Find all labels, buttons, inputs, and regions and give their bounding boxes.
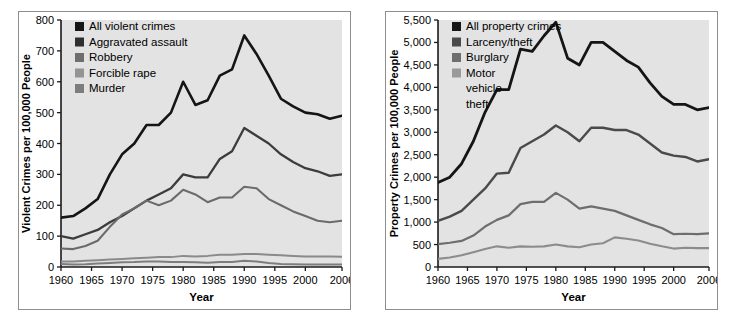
property-crimes-x-axis-title: Year [561, 291, 586, 303]
violent-crimes-x-tick-label: 1980 [171, 274, 195, 286]
violent-crimes-x-tick-label: 1990 [232, 274, 256, 286]
legend-swatch [75, 38, 84, 47]
legend-label: Forcible rape [89, 67, 156, 79]
property-crimes-y-tick-label: 3,000 [403, 126, 431, 138]
violent-crimes-y-tick-label: 700 [36, 45, 54, 57]
violent-crimes-y-tick-label: 200 [36, 199, 54, 211]
legend-swatch [452, 53, 461, 62]
property-crimes-y-tick-label: 500 [413, 239, 431, 251]
violent-crimes-y-tick-label: 0 [48, 261, 54, 273]
property-crimes-x-tick-label: 1960 [426, 274, 450, 286]
legend-swatch [75, 53, 84, 62]
legend-label: All property crimes [466, 20, 561, 32]
violent-crimes-y-tick-label: 100 [36, 230, 54, 242]
violent-crimes-x-tick-label: 1960 [49, 274, 73, 286]
property-crimes-y-tick-label: 1,000 [403, 216, 431, 228]
violent-crimes-svg: 0100200300400500600700800196019651970197… [19, 12, 350, 309]
property-crimes-x-tick-label: 1990 [602, 274, 626, 286]
violent-crimes-y-tick-label: 300 [36, 168, 54, 180]
legend-label: Motor [466, 67, 496, 79]
property-crimes-x-tick-label: 1995 [632, 274, 656, 286]
property-crimes-y-tick-label: 5,500 [403, 14, 431, 26]
violent-crimes-x-tick-label: 1965 [79, 274, 103, 286]
legend-label: vehicle [466, 82, 502, 94]
violent-crimes-y-tick-label: 600 [36, 76, 54, 88]
legend-label: Aggravated assault [89, 36, 188, 48]
legend-label: Robbery [89, 51, 133, 63]
legend-label: All violent crimes [89, 20, 176, 32]
violent-crimes-x-axis-title: Year [189, 291, 214, 303]
violent-crimes-x-tick-label: 1970 [110, 274, 134, 286]
property-crimes-x-tick-label: 2006 [697, 274, 717, 286]
property-crimes-x-tick-label: 1980 [544, 274, 568, 286]
property-crimes-x-tick-label: 1965 [455, 274, 479, 286]
legend-swatch [75, 69, 84, 78]
property-crimes-chart-panel: 05001,0001,5002,0002,5003,0003,5004,0004… [385, 11, 718, 310]
property-crimes-x-tick-label: 2000 [661, 274, 685, 286]
violent-crimes-y-tick-label: 500 [36, 107, 54, 119]
legend-label: Murder [89, 82, 126, 94]
violent-crimes-y-tick-label: 800 [36, 14, 54, 26]
legend-swatch [452, 38, 461, 47]
violent-crimes-x-tick-label: 2000 [293, 274, 317, 286]
legend-swatch [452, 22, 461, 31]
property-crimes-y-tick-label: 5,000 [403, 36, 431, 48]
property-crimes-x-tick-label: 1970 [485, 274, 509, 286]
property-crimes-x-tick-label: 1985 [573, 274, 597, 286]
legend-label: Larceny/theft [466, 36, 533, 48]
property-crimes-y-tick-label: 0 [425, 261, 431, 273]
legend-label: theft [466, 98, 489, 110]
legend-swatch [75, 84, 84, 93]
property-crimes-x-tick-label: 1975 [514, 274, 538, 286]
property-crimes-y-axis-title: Property Crimes per 100,000 People [388, 50, 400, 238]
legend-swatch [75, 22, 84, 31]
property-crimes-y-tick-label: 4,500 [403, 59, 431, 71]
violent-crimes-x-tick-label: 1995 [263, 274, 287, 286]
legend-swatch [452, 69, 461, 78]
violent-crimes-chart-panel: 0100200300400500600700800196019651970197… [18, 11, 351, 310]
violent-crimes-y-axis-title: Violent Crimes per 100,000 People [20, 54, 32, 233]
property-crimes-svg: 05001,0001,5002,0002,5003,0003,5004,0004… [386, 12, 717, 309]
property-crimes-y-tick-label: 2,500 [403, 149, 431, 161]
violent-crimes-x-tick-label: 1975 [140, 274, 164, 286]
violent-crimes-x-tick-label: 1985 [201, 274, 225, 286]
property-crimes-y-tick-label: 4,000 [403, 81, 431, 93]
property-crimes-y-tick-label: 2,000 [403, 171, 431, 183]
violent-crimes-y-tick-label: 400 [36, 138, 54, 150]
crime-statistics-figure: 0100200300400500600700800196019651970197… [0, 0, 735, 321]
property-crimes-y-tick-label: 3,500 [403, 104, 431, 116]
property-crimes-y-tick-label: 1,500 [403, 194, 431, 206]
violent-crimes-x-tick-label: 2006 [330, 274, 350, 286]
legend-label: Burglary [466, 51, 509, 63]
